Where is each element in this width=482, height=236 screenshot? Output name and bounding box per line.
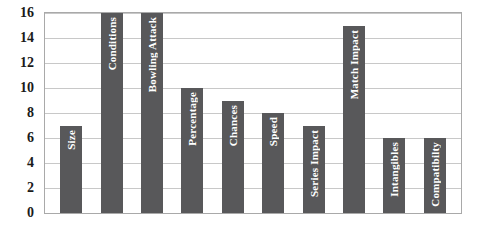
bar[interactable]: Bowling Attack <box>141 13 163 213</box>
bar-label: Bowling Attack <box>141 17 163 92</box>
bar-label: Compatibilty <box>424 142 446 207</box>
bar-slot: Compatibilty <box>415 13 455 213</box>
bar-slot: Intangibles <box>374 13 414 213</box>
bar-slot: Chances <box>213 13 253 213</box>
bar[interactable]: Conditions <box>101 13 123 213</box>
bar-label: Intangibles <box>383 142 405 197</box>
bar[interactable]: Chances <box>222 101 244 214</box>
bar[interactable]: Intangibles <box>383 138 405 213</box>
bar-label: Percentage <box>181 92 203 146</box>
bar-slot: Size <box>51 13 91 213</box>
bar[interactable]: Speed <box>262 113 284 213</box>
bar-label: Conditions <box>101 17 123 70</box>
bar-slot: Bowling Attack <box>132 13 172 213</box>
y-axis-tick-label: 6 <box>0 131 34 145</box>
bar-label: Match Impact <box>343 30 365 99</box>
y-axis-tick-label: 14 <box>0 31 34 45</box>
bar-label: Chances <box>222 105 244 146</box>
bar[interactable]: Percentage <box>181 88 203 213</box>
y-axis-tick-label: 16 <box>0 6 34 20</box>
y-axis-tick-label: 10 <box>0 81 34 95</box>
bar-slot: Conditions <box>91 13 131 213</box>
bar-slot: Speed <box>253 13 293 213</box>
bar-slot: Percentage <box>172 13 212 213</box>
y-axis-tick-label: 0 <box>0 206 34 220</box>
bar[interactable]: Size <box>60 126 82 214</box>
bar-label: Series Impact <box>303 130 325 197</box>
y-axis: 1614121086420 <box>0 0 40 236</box>
bar-chart: 1614121086420 SizeConditionsBowling Atta… <box>0 0 482 236</box>
y-axis-tick-label: 8 <box>0 106 34 120</box>
bars-container: SizeConditionsBowling AttackPercentageCh… <box>45 13 461 213</box>
y-axis-tick-label: 2 <box>0 181 34 195</box>
bar[interactable]: Compatibilty <box>424 138 446 213</box>
bar-label: Speed <box>262 117 284 146</box>
y-axis-tick-label: 4 <box>0 156 34 170</box>
plot-area: SizeConditionsBowling AttackPercentageCh… <box>44 12 462 214</box>
bar-slot: Series Impact <box>293 13 333 213</box>
bar[interactable]: Series Impact <box>303 126 325 214</box>
y-axis-tick-label: 12 <box>0 56 34 70</box>
bar-label: Size <box>60 130 82 150</box>
bar[interactable]: Match Impact <box>343 26 365 214</box>
bar-slot: Match Impact <box>334 13 374 213</box>
